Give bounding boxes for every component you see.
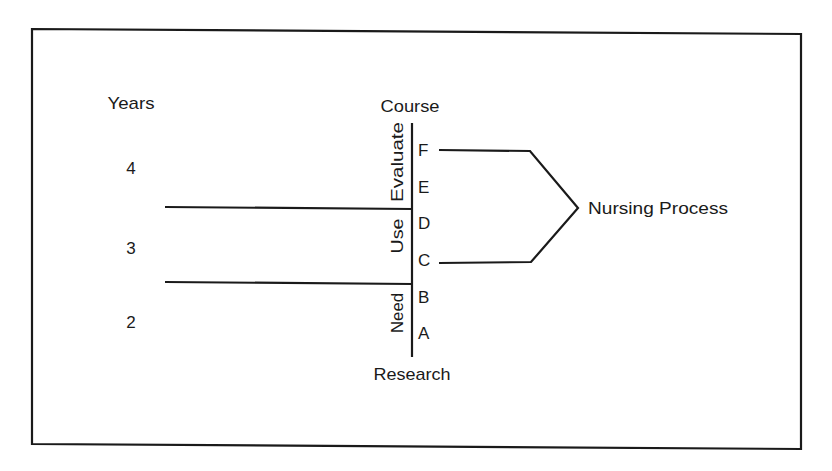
year-divider-3-4 [165, 207, 412, 209]
bracket-label-nursing-process: Nursing Process [588, 199, 728, 218]
years-heading: Years [108, 94, 155, 113]
phase-label-need: Need [388, 293, 407, 333]
course-label-c: C [418, 251, 430, 270]
research-course-diagram: Years 4 3 2 Course Research Evaluate Use… [0, 0, 832, 471]
course-label-e: E [418, 178, 429, 197]
phase-label-use: Use [388, 219, 407, 254]
course-label-d: D [418, 214, 430, 233]
year-divider-2-3 [165, 282, 412, 284]
course-label-b: B [418, 288, 429, 307]
axis-bottom-label-research: Research [374, 365, 451, 384]
course-label-f: F [418, 141, 428, 160]
nursing-process-bracket [439, 150, 578, 263]
diagram-frame [32, 29, 801, 449]
course-label-a: A [418, 324, 430, 343]
year-label-3: 3 [126, 239, 135, 258]
year-label-2: 2 [126, 313, 135, 332]
axis-top-label-course: Course [381, 97, 440, 116]
phase-label-evaluate: Evaluate [388, 122, 407, 202]
year-label-4: 4 [126, 159, 135, 178]
